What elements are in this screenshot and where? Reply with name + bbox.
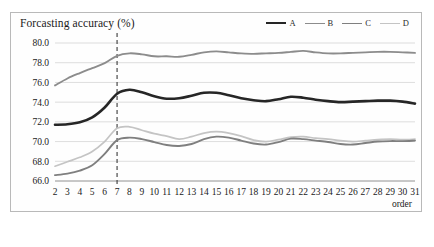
svg-text:26: 26 [348,187,358,197]
svg-text:14: 14 [199,187,209,197]
svg-text:10: 10 [150,187,160,197]
svg-text:72.0: 72.0 [32,117,49,127]
svg-text:74.0: 74.0 [32,98,49,108]
svg-text:3: 3 [65,187,70,197]
svg-text:5: 5 [90,187,95,197]
svg-text:6: 6 [102,187,107,197]
svg-text:17: 17 [236,187,246,197]
svg-text:21: 21 [286,187,296,197]
svg-text:76.0: 76.0 [32,78,49,88]
svg-text:66.0: 66.0 [32,176,49,186]
data-series-group [55,51,415,175]
gridlines [55,43,415,181]
svg-text:31: 31 [410,187,420,197]
svg-text:12: 12 [174,187,184,197]
svg-text:16: 16 [224,187,234,197]
svg-text:22: 22 [299,187,309,197]
svg-text:15: 15 [212,187,222,197]
chart-plot-area: 80.078.076.074.072.070.068.066.0 2345678… [11,13,423,213]
svg-text:4: 4 [77,187,82,197]
svg-text:27: 27 [361,187,371,197]
svg-text:25: 25 [336,187,346,197]
figure-caption [0,237,434,247]
svg-text:18: 18 [249,187,259,197]
svg-text:9: 9 [140,187,145,197]
svg-text:68.0: 68.0 [32,157,49,167]
svg-text:24: 24 [323,187,333,197]
svg-text:80.0: 80.0 [32,38,49,48]
svg-text:13: 13 [187,187,197,197]
svg-text:7: 7 [115,187,120,197]
svg-text:8: 8 [127,187,132,197]
svg-text:29: 29 [385,187,395,197]
x-axis-tick-labels: 2345678910111213141516171819202122232425… [53,187,420,197]
svg-text:2: 2 [53,187,58,197]
chart-figure: Forcasting accuracy (%) A B C D 80.078.0… [10,12,422,212]
svg-text:23: 23 [311,187,321,197]
svg-text:20: 20 [274,187,284,197]
y-axis-tick-labels: 80.078.076.074.072.070.068.066.0 [32,38,49,186]
svg-text:11: 11 [162,187,171,197]
svg-text:28: 28 [373,187,383,197]
svg-text:19: 19 [261,187,271,197]
svg-text:30: 30 [398,187,408,197]
x-axis-title: order [392,199,412,209]
svg-text:78.0: 78.0 [32,58,49,68]
svg-text:70.0: 70.0 [32,137,49,147]
